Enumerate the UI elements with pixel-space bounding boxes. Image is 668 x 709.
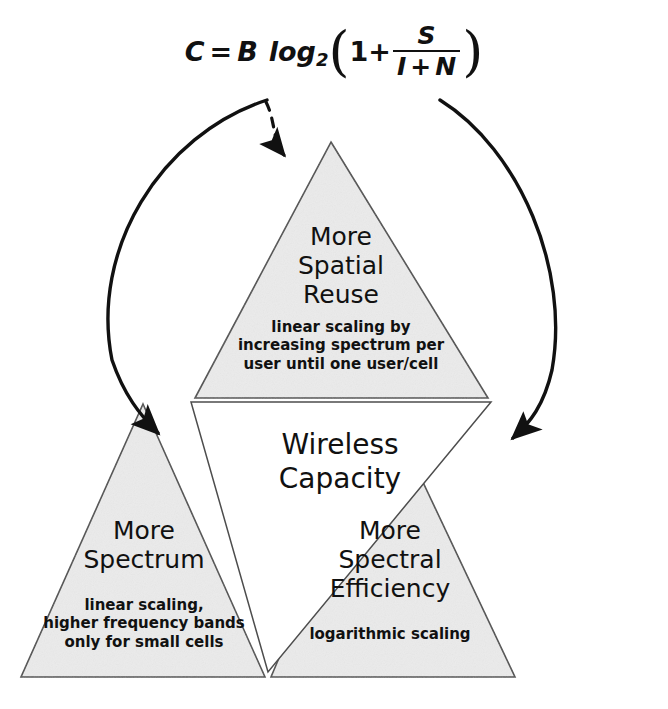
spectral-efficiency-subtitle: logarithmic scaling [266, 625, 514, 643]
spectral-efficiency-title-line1: More [266, 516, 514, 545]
spectral-efficiency-title-line3: Efficiency [266, 574, 514, 603]
more-spectrum-title-line1: More [22, 516, 266, 545]
spatial-reuse-title: More Spatial Reuse [198, 222, 484, 309]
triangle-more-spectrum-label: More Spectrum linear scaling, higher fre… [22, 516, 266, 651]
wireless-capacity-diagram: C=Blog2(1+SI+N) [0, 0, 668, 709]
spatial-reuse-title-line1: More [198, 222, 484, 251]
spectral-efficiency-sub-line1: logarithmic scaling [266, 625, 514, 643]
more-spectrum-subtitle: linear scaling, higher frequency bands o… [22, 596, 266, 651]
center-title-line1: Wireless [236, 428, 444, 462]
triangle-spectral-efficiency-label: More Spectral Efficiency logarithmic sca… [266, 516, 514, 643]
center-title-line2: Capacity [236, 462, 444, 496]
spatial-reuse-subtitle: linear scaling by increasing spectrum pe… [198, 318, 484, 373]
arrow-interference-to-spatial-reuse [266, 102, 284, 155]
spatial-reuse-title-line2: Spatial [198, 251, 484, 280]
more-spectrum-sub-line3: only for small cells [22, 633, 266, 651]
spatial-reuse-sub-line1: linear scaling by [198, 318, 484, 336]
spectral-efficiency-title-line2: Spectral [266, 545, 514, 574]
spatial-reuse-title-line3: Reuse [198, 280, 484, 309]
spatial-reuse-sub-line2: increasing spectrum per [198, 336, 484, 354]
spectral-efficiency-title: More Spectral Efficiency [266, 516, 514, 603]
more-spectrum-title: More Spectrum [22, 516, 266, 574]
triangle-spatial-reuse-label: More Spatial Reuse linear scaling by inc… [198, 222, 484, 373]
more-spectrum-title-line2: Spectrum [22, 545, 266, 574]
spatial-reuse-sub-line3: user until one user/cell [198, 355, 484, 373]
arrow-interference-to-spatial-reuse-path [266, 102, 284, 155]
center-wireless-capacity-label: Wireless Capacity [236, 428, 444, 495]
more-spectrum-sub-line1: linear scaling, [22, 596, 266, 614]
more-spectrum-sub-line2: higher frequency bands [22, 614, 266, 632]
